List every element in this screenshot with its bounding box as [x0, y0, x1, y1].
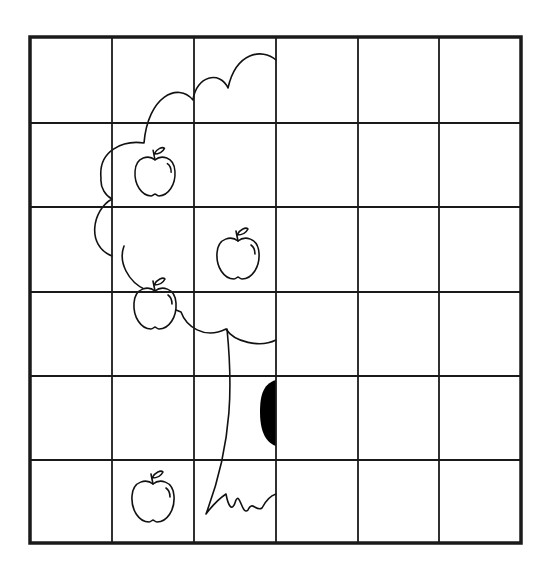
- foliage-outline-lower: [122, 246, 146, 290]
- apple-icon: [134, 278, 176, 329]
- apple-icon: [135, 148, 175, 196]
- tree-hollow: [260, 380, 276, 446]
- symmetry-worksheet: Symmetry drawing grid - half apple tree: [0, 0, 550, 577]
- apples: [132, 148, 259, 522]
- apple-icon: [132, 471, 174, 522]
- foliage-outline-bottom: [176, 310, 276, 344]
- foliage-outline: [95, 54, 276, 256]
- grid: [30, 37, 521, 543]
- apple-icon: [217, 228, 259, 279]
